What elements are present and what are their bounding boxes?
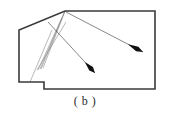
arrow-center (48, 22, 95, 73)
ray-4 (37, 22, 66, 70)
arrows-group (48, 12, 143, 73)
rays-group (30, 11, 66, 82)
figure-container: ( b ) (0, 0, 170, 118)
arrow-right (66, 12, 143, 52)
ray-6 (30, 30, 52, 82)
arrow-right-head (128, 44, 143, 52)
ray-5 (40, 18, 62, 69)
arrow-center-head (85, 62, 95, 73)
figure-caption: ( b ) (0, 94, 170, 108)
